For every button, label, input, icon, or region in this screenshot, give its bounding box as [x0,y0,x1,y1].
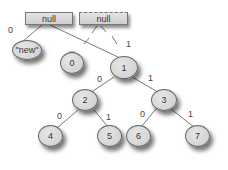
node-7-label: 7 [195,131,200,141]
node-0-label: 0 [69,58,74,68]
edge-label-n1-n3: 1 [148,74,153,83]
edge-label-n2-n5: 1 [106,113,111,122]
node-6-label: 6 [136,131,141,141]
edge-box2-node1 [112,36,117,44]
node-4: 4 [38,125,63,147]
node-7: 7 [185,125,210,147]
edge-label-box1-node1: 1 [126,40,131,49]
node-2-label: 2 [82,95,87,105]
edge-box2-left [92,26,97,33]
node-0: 0 [60,52,84,74]
node-4-label: 4 [48,131,53,141]
null-box-2: null [79,12,128,25]
trie-diagram: null null 0 1 "new" 0 1 0 1 2 3 0 1 0 1 … [0,0,228,170]
null-box-2-label: null [96,14,110,24]
node-5-label: 5 [107,131,112,141]
node-3-label: 3 [161,95,166,105]
edge-box1-node1 [50,25,118,57]
node-1: 1 [110,56,138,79]
null-box-1: null [25,12,73,25]
node-new: "new" [12,40,42,60]
edge-label-n2-n4: 0 [57,112,62,121]
node-5: 5 [97,125,122,147]
edge-box2-right [101,26,106,32]
node-2: 2 [72,89,98,111]
node-3: 3 [151,89,177,111]
edge-label-n3-n7: 1 [188,110,193,119]
node-new-label: "new" [16,45,39,55]
node-1-label: 1 [121,63,126,73]
edge-label-n3-n6: 0 [140,110,145,119]
edge-label-n1-n2: 0 [97,75,102,84]
node-6: 6 [126,125,151,147]
null-box-1-label: null [42,14,56,24]
edge-label-box1-new: 0 [8,26,13,35]
